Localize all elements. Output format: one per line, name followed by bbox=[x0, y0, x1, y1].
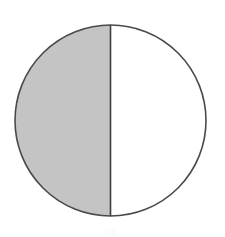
scan-artifact bbox=[106, 229, 116, 235]
figure-canvas: Circle divided into two equal halves wit… bbox=[0, 0, 225, 237]
half-shaded-circle-diagram: Circle divided into two equal halves wit… bbox=[0, 0, 225, 237]
